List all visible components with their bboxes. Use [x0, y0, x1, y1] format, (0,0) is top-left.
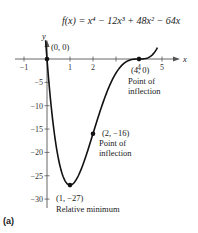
point-label-2-neg16: (2, −16) — [102, 128, 130, 138]
y-axis-label: y — [41, 31, 46, 41]
point-note-2-neg16-line1: Point of — [99, 138, 126, 148]
point-marker — [68, 183, 73, 188]
point-note-4-0-line2: inflection — [128, 86, 161, 96]
y-tick-label: −20 — [30, 148, 43, 157]
x-tick-label: 1 — [68, 63, 72, 72]
point-label-1-neg27: (1, −27) — [56, 193, 84, 203]
function-curve — [46, 40, 158, 185]
y-tick-label: −30 — [30, 195, 43, 204]
x-axis-label: x — [182, 54, 187, 64]
x-tick-label: −1 — [20, 63, 29, 72]
point-note-4-0-line1: Point of — [128, 76, 155, 86]
point-label-4-0: (4, 0) — [131, 65, 150, 75]
point-marker — [45, 57, 50, 62]
point-marker — [91, 131, 96, 136]
x-tick-label: 5 — [160, 63, 164, 72]
point-note-2-neg16-line2: inflection — [99, 148, 132, 158]
chart-title: f(x) = x⁴ − 12x³ + 48x² − 64x — [62, 15, 181, 27]
x-tick-label: 2 — [91, 63, 95, 72]
y-tick-label: −10 — [30, 102, 43, 111]
key-points — [45, 57, 142, 188]
panel-label: (a) — [3, 216, 14, 226]
y-tick-label: −15 — [30, 125, 43, 134]
point-note-relative-minimum: Relative minimum — [56, 204, 120, 214]
y-tick-label: −5 — [34, 78, 43, 87]
y-tick-label: −25 — [30, 172, 43, 181]
point-marker — [137, 57, 142, 62]
point-label-origin: (0, 0) — [51, 42, 70, 52]
function-graph: f(x) = x⁴ − 12x³ + 48x² − 64x x y −11245… — [0, 0, 198, 233]
